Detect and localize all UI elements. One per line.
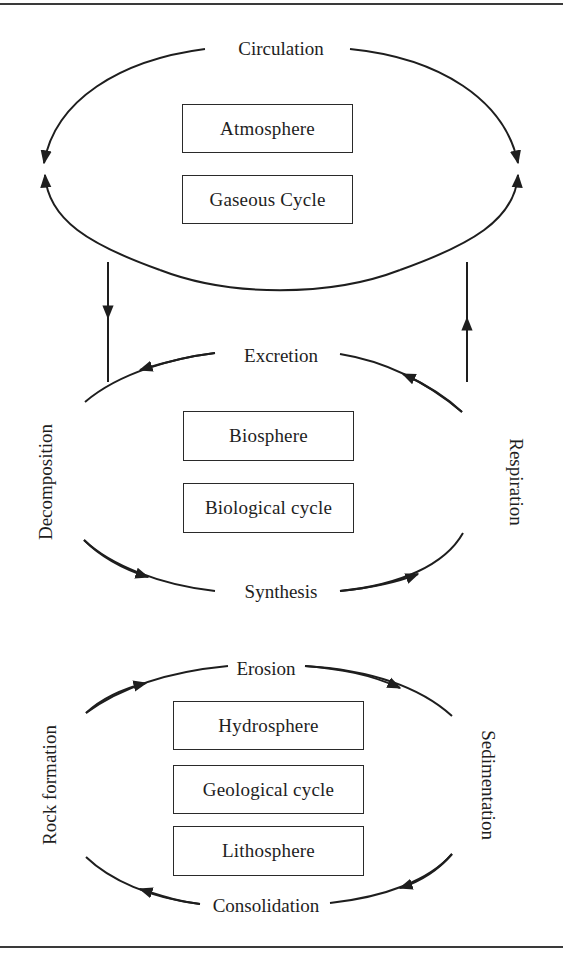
flow-label-synthesis: Synthesis bbox=[245, 581, 318, 602]
flow-label-rock-formation: Rock formation bbox=[39, 725, 60, 845]
flow-label-consolidation: Consolidation bbox=[213, 895, 320, 916]
flow-label-decomposition: Decomposition bbox=[35, 423, 56, 540]
flow-label-excretion: Excretion bbox=[244, 345, 318, 366]
box-biosphere: Biosphere bbox=[183, 411, 354, 461]
atmosphere-cycle-ellipse bbox=[44, 49, 518, 290]
box-hydrosphere: Hydrosphere bbox=[173, 701, 364, 750]
box-atmosphere: Atmosphere bbox=[182, 104, 353, 153]
box-lithosphere: Lithosphere bbox=[173, 826, 364, 876]
box-biological-cycle: Biological cycle bbox=[183, 483, 354, 533]
flow-label-sedimentation: Sedimentation bbox=[478, 730, 499, 840]
box-geological-cycle: Geological cycle bbox=[173, 765, 364, 814]
flow-label-respiration: Respiration bbox=[506, 438, 527, 526]
flow-label-erosion: Erosion bbox=[236, 658, 296, 679]
flow-label-circulation: Circulation bbox=[238, 38, 324, 59]
box-gaseous-cycle: Gaseous Cycle bbox=[182, 175, 353, 224]
biological-cycle-ellipse bbox=[84, 353, 463, 591]
